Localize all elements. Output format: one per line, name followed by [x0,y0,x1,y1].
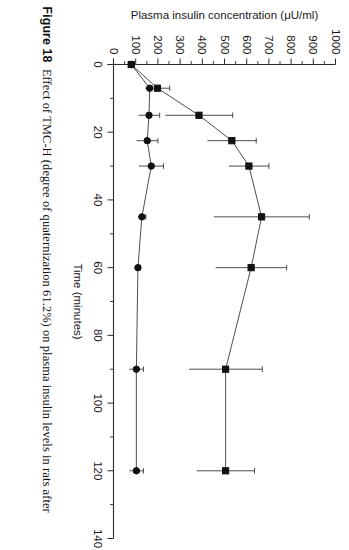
x-tick-label: 80 [91,328,103,341]
marker-circle [133,467,139,473]
series-1 [128,61,309,473]
y-tick-label: 200 [151,35,163,54]
x-tick-label: 20 [91,125,103,138]
x-tick-label: 0 [91,61,103,67]
y-axis-ticks: 01002003004005006007008009001000 [107,28,341,64]
y-axis-title: Plasma insulin concentration (μU/ml) [130,8,318,20]
series-line [131,64,261,470]
x-tick-label: 40 [91,193,103,206]
rotated-figure-container: 01002003004005006007008009001000 0204060… [0,0,349,550]
marker-square [222,366,228,372]
y-tick-label: 800 [285,35,297,54]
y-tick-label: 700 [262,35,274,54]
x-tick-label: 140 [91,528,103,547]
series-2 [128,61,163,474]
caption-line: Figure 18 Effect of TMC-H (degree of qua… [38,6,53,512]
insulin-line-chart: 01002003004005006007008009001000 0204060… [64,0,349,550]
marker-square [245,162,251,168]
y-tick-label: 100 [129,35,141,54]
marker-square [222,467,228,473]
marker-circle [146,85,152,91]
marker-square [228,137,234,143]
y-tick-label: 0 [107,48,119,54]
marker-circle [148,162,154,168]
marker-circle [145,112,151,118]
marker-circle [144,137,150,143]
x-tick-label: 100 [91,393,103,412]
marker-square [248,264,254,270]
marker-square [154,85,160,91]
data-series-group [128,61,309,474]
marker-circle [133,366,139,372]
y-tick-label: 300 [174,35,186,54]
axis-label-group: Time (minutes)Plasma insulin concentrati… [71,8,318,339]
x-tick-label: 60 [91,261,103,274]
y-tick-label: 900 [307,35,319,54]
marker-square [195,112,201,118]
x-axis-ticks: 020406080100120140 [91,61,113,548]
plot-area: 01002003004005006007008009001000 0204060… [64,0,349,550]
marker-circle [138,213,144,219]
figure-number: Figure 18 [39,6,53,62]
y-tick-label: 500 [218,35,230,54]
caption-body: Effect of TMC-H (degree of quaternizatio… [39,68,53,512]
figure-page: 01002003004005006007008009001000 0204060… [0,0,349,550]
marker-circle [134,264,140,270]
y-tick-label: 1000 [329,28,341,54]
marker-square [258,213,264,219]
x-axis-title: Time (minutes) [71,263,83,339]
y-tick-label: 400 [196,35,208,54]
figure-caption: Figure 18 Effect of TMC-H (degree of qua… [7,0,57,550]
x-tick-label: 120 [91,461,103,480]
y-tick-label: 600 [240,35,252,54]
